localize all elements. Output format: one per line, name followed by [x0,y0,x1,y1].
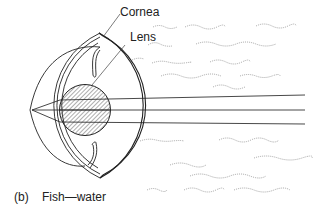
caption-text: Fish—water [42,190,106,204]
water-ripples [132,24,312,192]
cornea-label: Cornea [120,5,159,19]
caption-marker: (b) [14,190,29,204]
fish-eye-diagram [0,0,322,210]
figure-caption: (b) Fish—water [14,190,106,204]
lens-label: Lens [130,30,156,44]
